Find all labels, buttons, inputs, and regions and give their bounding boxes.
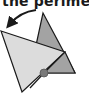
pivot-point xyxy=(40,69,48,77)
rotation-diagram xyxy=(0,0,89,93)
rotation-arrow-icon xyxy=(10,10,36,24)
